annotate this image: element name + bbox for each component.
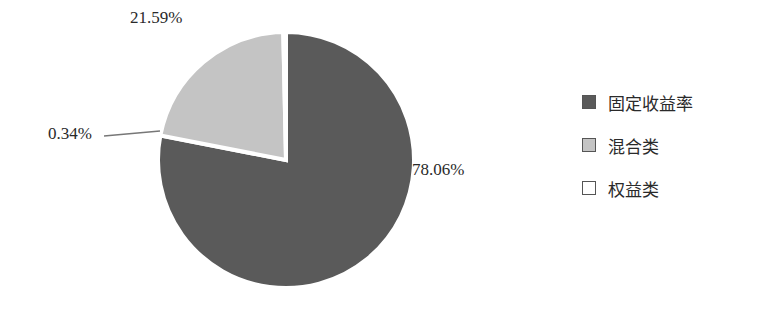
swatch-fixed-income	[582, 95, 596, 109]
legend-label: 固定收益率	[608, 90, 693, 115]
legend-label: 混合类	[608, 133, 659, 158]
swatch-mixed	[582, 138, 596, 152]
legend-item-mixed: 混合类	[582, 135, 693, 155]
legend: 固定收益率 混合类 权益类	[582, 92, 693, 221]
label-equity: 0.34%	[48, 124, 92, 144]
legend-item-fixed-income: 固定收益率	[582, 92, 693, 112]
slice-equity	[283, 32, 286, 160]
label-mixed: 21.59%	[130, 8, 182, 28]
legend-label: 权益类	[608, 176, 659, 201]
label-fixed-income: 78.06%	[412, 160, 464, 180]
legend-item-equity: 权益类	[582, 178, 693, 198]
slice-mixed	[160, 32, 286, 160]
pie-slices	[158, 32, 414, 288]
swatch-equity	[582, 181, 596, 195]
leader-line-equity	[104, 131, 160, 136]
